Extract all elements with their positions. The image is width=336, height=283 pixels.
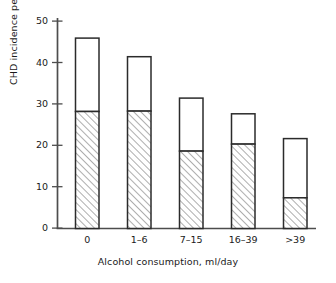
bar-lower-segment <box>180 151 204 228</box>
bar-series <box>76 38 308 228</box>
y-tick-label-0: 0 <box>24 223 48 233</box>
plot-area: 50 40 30 20 10 0 0 1–6 7–15 16–39 >39 Al… <box>0 0 336 283</box>
bar-group-4 <box>284 139 308 229</box>
x-tick-label-3: 16–39 <box>213 235 273 245</box>
bar-lower-segment <box>284 198 308 229</box>
y-tick-label-50: 50 <box>24 16 48 26</box>
x-tick-label-2: 7–15 <box>161 235 221 245</box>
y-tick-label-30: 30 <box>24 99 48 109</box>
bar-upper-segment <box>284 139 308 198</box>
x-tick-label-4: >39 <box>265 235 325 245</box>
bar-upper-segment <box>128 57 152 111</box>
y-tick-label-10: 10 <box>24 182 48 192</box>
bar-upper-segment <box>232 114 256 144</box>
y-tick-label-20: 20 <box>24 140 48 150</box>
bar-upper-segment <box>76 38 100 111</box>
bar-group-0 <box>76 38 100 228</box>
bar-lower-segment <box>76 112 100 229</box>
bar-group-2 <box>180 98 204 228</box>
x-axis-title: Alcohol consumption, ml/day <box>0 256 336 267</box>
chd-alcohol-bar-chart: CHD incidence per 1000 <box>0 0 336 283</box>
y-tick-label-40: 40 <box>24 58 48 68</box>
x-tick-label-1: 1–6 <box>109 235 169 245</box>
bar-lower-segment <box>128 111 152 228</box>
x-tick-label-0: 0 <box>57 235 117 245</box>
bar-group-1 <box>128 57 152 229</box>
bar-group-3 <box>232 114 256 229</box>
bar-upper-segment <box>180 98 204 151</box>
bar-lower-segment <box>232 144 256 228</box>
